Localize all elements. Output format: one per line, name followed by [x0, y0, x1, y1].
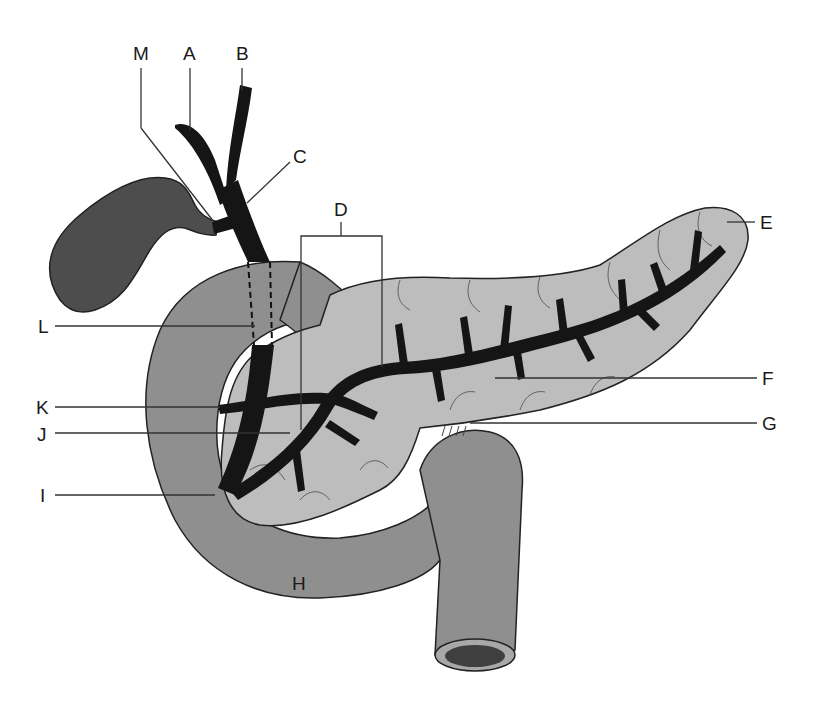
- label-g: G: [762, 413, 777, 434]
- label-a: A: [183, 43, 196, 64]
- label-d: D: [334, 199, 348, 220]
- pancreas-anatomy-diagram: M A B C D E F G H I J K L: [0, 0, 815, 708]
- label-h: H: [292, 573, 306, 594]
- label-j: J: [37, 424, 47, 445]
- label-c: C: [293, 146, 307, 167]
- label-k: K: [36, 397, 49, 418]
- label-i: I: [40, 485, 45, 506]
- label-b: B: [236, 43, 249, 64]
- label-e: E: [760, 212, 773, 233]
- label-l: L: [38, 316, 49, 337]
- label-m: M: [133, 43, 149, 64]
- label-f: F: [762, 368, 774, 389]
